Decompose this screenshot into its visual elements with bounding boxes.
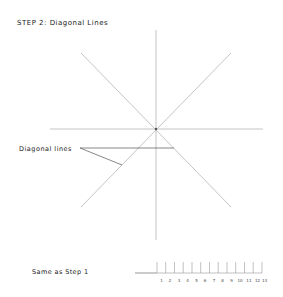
svg-text:5: 5: [195, 278, 198, 283]
diagonal-lines-label: Diagonal lines: [19, 145, 72, 153]
ruler: [135, 262, 262, 273]
svg-text:13: 13: [262, 278, 268, 283]
guide-lines: [50, 30, 263, 240]
leader-lines: [80, 148, 174, 165]
ruler-numbers: 1 2 3 4 5 6 7 8 9 10 11 12 13: [160, 278, 267, 283]
center-point: [155, 128, 157, 130]
ruler-label: Same as Step 1: [32, 268, 89, 276]
svg-text:3: 3: [178, 278, 181, 283]
svg-text:11: 11: [246, 278, 252, 283]
svg-text:10: 10: [238, 278, 244, 283]
svg-text:12: 12: [255, 278, 261, 283]
svg-text:8: 8: [221, 278, 224, 283]
svg-text:9: 9: [230, 278, 233, 283]
svg-text:7: 7: [213, 278, 216, 283]
svg-text:2: 2: [169, 278, 172, 283]
svg-text:4: 4: [186, 278, 189, 283]
svg-text:6: 6: [204, 278, 207, 283]
svg-text:1: 1: [160, 278, 163, 283]
